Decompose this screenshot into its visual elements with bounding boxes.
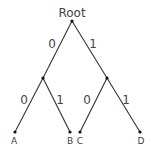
edge-label-left-B: 1 (56, 93, 64, 107)
nodes (13, 19, 141, 133)
edge-label-root-left: 0 (48, 37, 56, 51)
leaf-node-c (78, 130, 81, 133)
edge-label-right-D: 1 (122, 93, 130, 107)
leaf-node-b (68, 130, 71, 133)
leaf-node-a (13, 130, 16, 133)
node-labels: Root A B C D (11, 6, 145, 146)
edge-label-right-C: 0 (83, 93, 91, 107)
internal-node-right (105, 76, 108, 79)
edge-labels: 010101 (20, 37, 130, 107)
edges (15, 21, 140, 132)
leaf-label-a: A (11, 136, 18, 146)
leaf-label-d: D (138, 136, 145, 146)
binary-tree-diagram: 010101 Root A B C D (0, 0, 150, 149)
internal-node-left (41, 76, 44, 79)
edge-label-left-A: 0 (20, 93, 28, 107)
leaf-label-c: C (77, 136, 83, 146)
root-label: Root (58, 6, 85, 20)
leaf-label-b: B (67, 136, 73, 146)
leaf-node-d (138, 130, 141, 133)
edge-label-root-right: 1 (89, 37, 97, 51)
